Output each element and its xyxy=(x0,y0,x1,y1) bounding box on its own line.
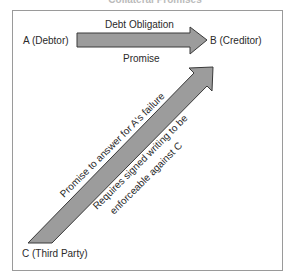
requires-signed-writing-label-line1: Requires signed writing to be xyxy=(91,112,190,211)
debt-obligation-label: Debt Obligation xyxy=(105,19,174,30)
promise-to-answer-arrow xyxy=(28,67,213,243)
party-c-label: C (Third Party) xyxy=(22,248,88,259)
debt-obligation-arrow xyxy=(77,27,207,54)
party-a-label: A (Debtor) xyxy=(23,35,69,46)
promise-label: Promise xyxy=(123,53,160,64)
party-b-label: B (Creditor) xyxy=(210,35,262,46)
diagram-canvas: A (Debtor) B (Creditor) C (Third Party) … xyxy=(0,0,296,279)
